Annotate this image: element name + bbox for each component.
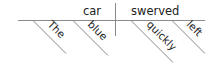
- modifier-blue: blue: [86, 18, 111, 43]
- predicate-word: swerved: [131, 4, 179, 18]
- sentence-diagram: car swerved The blue quickly left: [0, 0, 219, 63]
- subject-word: car: [83, 4, 101, 18]
- modifier-left: left: [185, 18, 206, 39]
